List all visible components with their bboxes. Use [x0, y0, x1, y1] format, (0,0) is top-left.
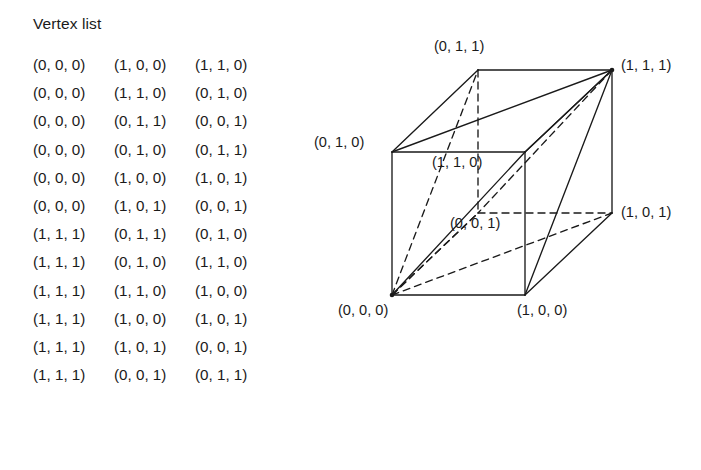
vertex-cell: (0, 1, 1)	[114, 107, 195, 135]
vertex-cell: (0, 0, 0)	[33, 164, 114, 192]
vertex-cell: (0, 0, 0)	[33, 51, 114, 79]
vertex-cell: (1, 0, 1)	[195, 164, 276, 192]
table-row: (0, 0, 0) (1, 0, 0) (1, 0, 1)	[33, 164, 276, 192]
vertex-cell: (0, 1, 1)	[195, 361, 276, 389]
table-row: (0, 0, 0) (0, 1, 1) (0, 0, 1)	[33, 107, 276, 135]
cube-label-back-top-right: (1, 1, 1)	[621, 57, 671, 74]
vertex-cell: (1, 0, 0)	[114, 305, 195, 333]
vertex-cell: (0, 0, 0)	[33, 136, 114, 164]
vertex-cell: (0, 0, 0)	[33, 107, 114, 135]
cube-diagram: (0, 1, 1) (1, 1, 1) (0, 1, 0) (1, 1, 0) …	[310, 30, 701, 350]
table-row: (0, 0, 0) (0, 1, 0) (0, 1, 1)	[33, 136, 276, 164]
vertex-cell: (0, 0, 0)	[33, 192, 114, 220]
edge-top-left-depth	[392, 70, 478, 152]
vertex-list-title: Vertex list	[33, 14, 323, 34]
vertex-cell: (1, 1, 1)	[33, 277, 114, 305]
vertex-cell: (1, 1, 1)	[33, 361, 114, 389]
vertex-cell: (0, 1, 0)	[195, 79, 276, 107]
table-row: (1, 1, 1) (1, 0, 1) (0, 0, 1)	[33, 333, 276, 361]
vertex-cell: (1, 1, 1)	[33, 248, 114, 276]
cube-label-front-bottom-right: (1, 0, 0)	[517, 302, 567, 319]
vertex-list-panel: Vertex list (0, 0, 0) (1, 0, 0) (1, 1, 0…	[33, 14, 323, 389]
vertex-list-table: (0, 0, 0) (1, 0, 0) (1, 1, 0) (0, 0, 0) …	[33, 51, 276, 389]
vertex-cell: (1, 1, 0)	[195, 51, 276, 79]
cube-label-back-bottom-right: (1, 0, 1)	[621, 204, 671, 221]
vertex-cell: (0, 1, 0)	[114, 248, 195, 276]
diagonal-111-to-100	[525, 70, 612, 295]
vertex-cell: (1, 1, 0)	[195, 248, 276, 276]
cube-label-back-bottom-left: (0, 0, 1)	[450, 215, 500, 232]
figure-page: Vertex list (0, 0, 0) (1, 0, 0) (1, 1, 0…	[0, 0, 701, 470]
diagonal-111-to-110	[525, 70, 612, 152]
vertex-dot-111	[610, 68, 615, 73]
cube-label-front-top-left: (0, 1, 0)	[314, 134, 364, 151]
cube-label-front-top-right: (1, 1, 0)	[432, 154, 482, 171]
vertex-cell: (1, 0, 1)	[114, 333, 195, 361]
vertex-cell: (1, 1, 0)	[114, 79, 195, 107]
vertex-cell: (0, 1, 0)	[114, 136, 195, 164]
vertex-cell: (0, 1, 0)	[195, 220, 276, 248]
vertex-markers	[390, 68, 615, 298]
table-row: (1, 1, 1) (1, 0, 0) (1, 0, 1)	[33, 305, 276, 333]
vertex-cell: (0, 0, 1)	[195, 192, 276, 220]
cube-label-back-top-left: (0, 1, 1)	[434, 38, 484, 55]
diagonal-000-to-101	[392, 213, 612, 295]
vertex-cell: (1, 1, 1)	[33, 220, 114, 248]
vertex-cell: (0, 0, 1)	[114, 361, 195, 389]
edge-bottom-right-depth	[525, 213, 612, 295]
table-row: (0, 0, 0) (1, 0, 0) (1, 1, 0)	[33, 51, 276, 79]
vertex-cell: (0, 1, 1)	[195, 136, 276, 164]
table-row: (1, 1, 1) (0, 0, 1) (0, 1, 1)	[33, 361, 276, 389]
vertex-cell: (0, 1, 1)	[114, 220, 195, 248]
table-row: (1, 1, 1) (0, 1, 0) (1, 1, 0)	[33, 248, 276, 276]
diagonal-111-to-001	[478, 70, 612, 213]
vertex-cell: (1, 0, 0)	[114, 51, 195, 79]
vertex-cell: (1, 1, 0)	[114, 277, 195, 305]
vertex-cell: (1, 0, 1)	[195, 305, 276, 333]
table-row: (0, 0, 0) (1, 0, 1) (0, 0, 1)	[33, 192, 276, 220]
table-row: (1, 1, 1) (1, 1, 0) (1, 0, 0)	[33, 277, 276, 305]
table-row: (1, 1, 1) (0, 1, 1) (0, 1, 0)	[33, 220, 276, 248]
vertex-cell: (1, 1, 1)	[33, 305, 114, 333]
vertex-cell: (0, 0, 1)	[195, 333, 276, 361]
vertex-cell: (1, 0, 0)	[114, 164, 195, 192]
diagonal-111-to-010	[392, 70, 612, 152]
cube-label-front-bottom-left: (0, 0, 0)	[338, 302, 388, 319]
vertex-cell: (1, 0, 1)	[114, 192, 195, 220]
diagonal-000-to-011	[392, 70, 478, 295]
vertex-cell: (1, 1, 1)	[33, 333, 114, 361]
vertex-cell: (0, 0, 1)	[195, 107, 276, 135]
vertex-cell: (0, 0, 0)	[33, 79, 114, 107]
vertex-cell: (1, 0, 0)	[195, 277, 276, 305]
vertex-dot-000	[390, 293, 395, 298]
table-row: (0, 0, 0) (1, 1, 0) (0, 1, 0)	[33, 79, 276, 107]
